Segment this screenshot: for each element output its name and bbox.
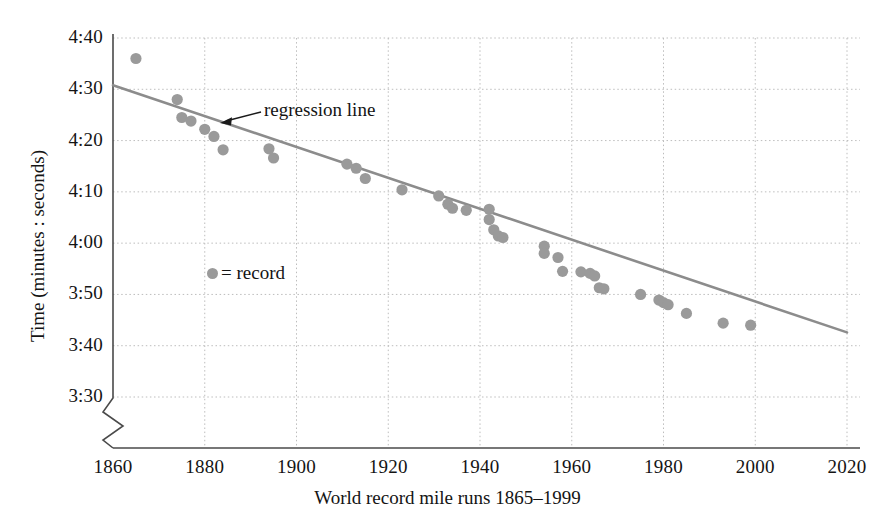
legend-record-label: = record [221,262,285,284]
scatter-point [497,232,508,243]
y-tick-label: 3:30 [45,385,103,407]
legend-record-marker-icon [207,268,218,279]
scatter-point [552,252,563,263]
y-tick-label: 4:00 [45,231,103,253]
scatter-point [433,190,444,201]
scatter-point [218,144,229,155]
scatter-point [662,299,673,310]
x-tick-label: 1980 [624,456,704,478]
y-axis-spine [103,34,123,448]
scatter-point [484,214,495,225]
scatter-point [484,204,495,215]
scatter-point [268,152,279,163]
y-tick-label: 3:40 [45,334,103,356]
scatter-point [199,124,210,135]
x-tick-label: 1960 [532,456,612,478]
y-tick-label: 4:20 [45,129,103,151]
x-axis-title: World record mile runs 1865–1999 [0,487,895,509]
regression-annotation-label: regression line [264,99,375,121]
scatter-point [598,283,609,294]
scatter-point [745,320,756,331]
scatter-point [539,248,550,259]
scatter-point [557,266,568,277]
scatter-point [172,94,183,105]
scatter-point [185,115,196,126]
scatter-point [130,53,141,64]
scatter-point [351,163,362,174]
scatter-point [589,270,600,281]
regression-annotation-arrow [220,112,261,125]
plot-canvas [0,0,895,529]
scatter-point [681,308,692,319]
y-tick-label: 3:50 [45,282,103,304]
scatter-point [447,203,458,214]
x-tick-label: 1940 [440,456,520,478]
x-tick-label: 2020 [807,456,887,478]
x-tick-label: 2000 [715,456,795,478]
y-tick-label: 4:10 [45,180,103,202]
y-axis-title: Time (minutes : seconds) [27,96,49,396]
scatter-point [360,173,371,184]
x-tick-label: 1900 [257,456,337,478]
figure: 3:303:403:504:004:104:204:304:40 1860188… [0,0,895,529]
legend: = record [207,262,285,284]
scatter-point [396,184,407,195]
scatter-point [461,205,472,216]
x-tick-label: 1920 [348,456,428,478]
y-tick-label: 4:30 [45,77,103,99]
x-tick-label: 1860 [73,456,153,478]
scatter-point [208,131,219,142]
scatter-point [718,318,729,329]
scatter-point [635,289,646,300]
y-tick-label: 4:40 [45,26,103,48]
x-tick-label: 1880 [165,456,245,478]
